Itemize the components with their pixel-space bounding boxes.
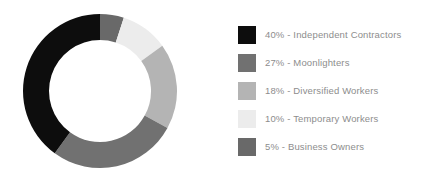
donut-slice[interactable] <box>55 116 168 168</box>
donut-chart-svg <box>23 14 177 168</box>
donut-slice[interactable] <box>141 46 177 128</box>
legend-swatch-icon <box>238 110 256 128</box>
legend-item-label: 10% - Temporary Workers <box>265 110 378 128</box>
legend-item-label: 18% - Diversified Workers <box>265 82 378 100</box>
donut-slice-group <box>23 14 177 168</box>
legend-item[interactable]: 27% - Moonlighters <box>238 54 438 72</box>
donut-chart-figure: 40% - Independent Contractors27% - Moonl… <box>0 0 439 182</box>
legend-swatch-icon <box>238 82 256 100</box>
legend-swatch-icon <box>238 54 256 72</box>
legend-item-label: 27% - Moonlighters <box>265 54 350 72</box>
legend-item[interactable]: 40% - Independent Contractors <box>238 26 438 44</box>
legend-item-label: 40% - Independent Contractors <box>265 26 401 44</box>
donut-chart <box>23 14 177 168</box>
legend-item[interactable]: 5% - Business Owners <box>238 138 438 156</box>
donut-slice[interactable] <box>23 14 100 153</box>
chart-legend: 40% - Independent Contractors27% - Moonl… <box>238 26 438 156</box>
legend-swatch-icon <box>238 26 256 44</box>
legend-item-label: 5% - Business Owners <box>265 138 364 156</box>
legend-swatch-icon <box>238 138 256 156</box>
legend-item[interactable]: 18% - Diversified Workers <box>238 82 438 100</box>
legend-item[interactable]: 10% - Temporary Workers <box>238 110 438 128</box>
